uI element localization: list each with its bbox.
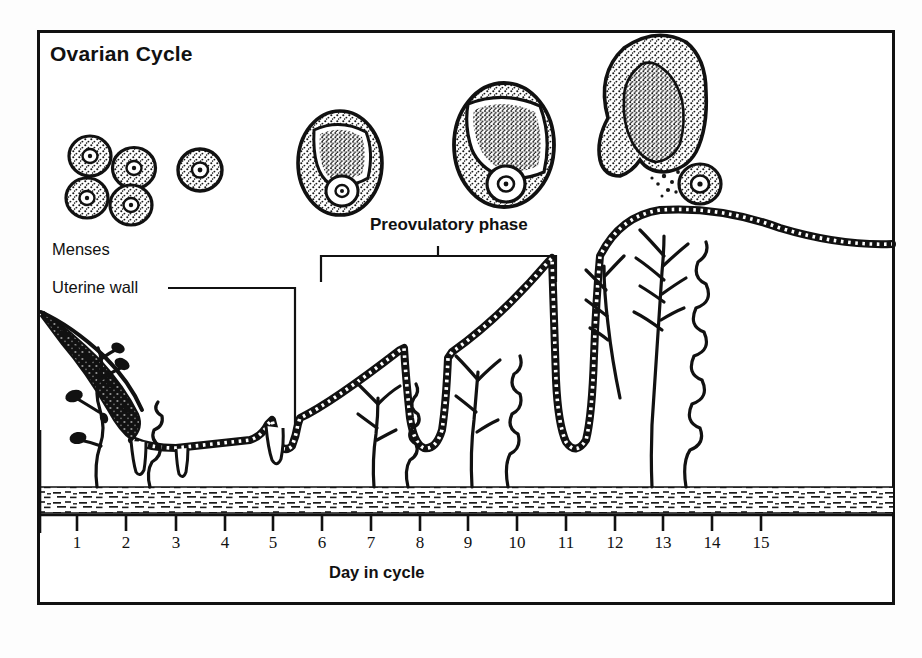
day-label: 8	[416, 533, 425, 553]
day-label: 5	[269, 533, 278, 553]
day-label: 10	[509, 533, 526, 553]
annotation-lines	[168, 246, 556, 424]
day-label: 13	[655, 533, 672, 553]
primordial-follicle	[69, 136, 111, 176]
ovarian-cycle-figure: Ovarian Cycle Menses Uterine wall Preovu…	[0, 0, 922, 658]
primordial-follicle	[66, 178, 108, 218]
graafian-follicle	[454, 83, 554, 207]
day-label: 6	[318, 533, 327, 553]
day-label: 3	[172, 533, 181, 553]
ovarian-follicle-series	[66, 35, 721, 225]
primordial-follicles-group	[66, 136, 156, 225]
primary-follicle	[178, 149, 222, 191]
day-label: 1	[73, 533, 82, 553]
day-label: 11	[558, 533, 574, 553]
day-label: 14	[704, 533, 721, 553]
myometrium-layer	[40, 487, 893, 513]
secondary-follicle	[298, 111, 382, 215]
day-label: 4	[221, 533, 230, 553]
day-label: 12	[607, 533, 624, 553]
primordial-follicle	[113, 148, 156, 189]
released-oocyte	[679, 164, 721, 204]
day-label: 9	[464, 533, 473, 553]
day-label: 2	[122, 533, 131, 553]
day-label: 15	[753, 533, 770, 553]
ruptured-follicle	[599, 35, 721, 204]
uterine-wall-leader-line	[168, 288, 295, 424]
primordial-follicle	[110, 185, 152, 225]
day-label: 7	[367, 533, 376, 553]
diagram-artwork	[0, 0, 922, 658]
preovulatory-bracket	[321, 256, 556, 282]
axis-tick-marks	[77, 515, 761, 531]
